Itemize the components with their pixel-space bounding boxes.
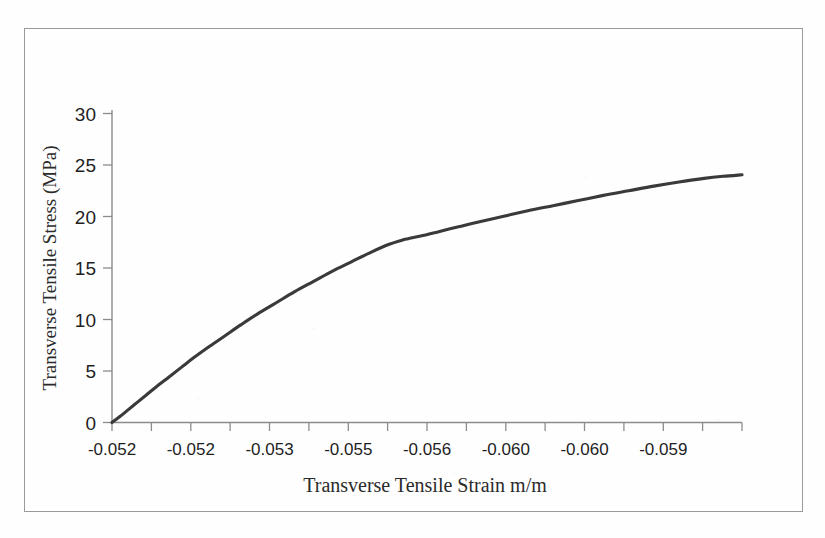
x-axis-ticks bbox=[112, 423, 742, 432]
y-tick-label: 25 bbox=[75, 155, 96, 176]
data-series-line bbox=[112, 175, 742, 423]
y-tick-label: 5 bbox=[85, 361, 96, 382]
x-tick-label: -0.052 bbox=[88, 440, 136, 459]
x-axis-title: Transverse Tensile Strain m/m bbox=[303, 474, 547, 496]
x-tick-label: -0.060 bbox=[482, 440, 530, 459]
stress-strain-chart: 30 25 20 15 10 5 0 bbox=[0, 0, 825, 538]
x-tick-label: -0.056 bbox=[403, 440, 451, 459]
x-tick-label: -0.055 bbox=[324, 440, 372, 459]
y-tick-label: 0 bbox=[85, 413, 96, 434]
y-tick-label: 30 bbox=[75, 104, 96, 125]
figure-page: 30 25 20 15 10 5 0 bbox=[0, 0, 825, 538]
y-tick-label: 15 bbox=[75, 258, 96, 279]
x-tick-label: -0.059 bbox=[639, 440, 687, 459]
y-axis-ticks bbox=[103, 114, 112, 423]
y-tick-label: 20 bbox=[75, 207, 96, 228]
x-tick-label: -0.060 bbox=[560, 440, 608, 459]
y-tick-labels: 30 25 20 15 10 5 0 bbox=[75, 104, 96, 434]
x-tick-label: -0.053 bbox=[245, 440, 293, 459]
x-tick-label: -0.052 bbox=[167, 440, 215, 459]
y-axis-title: Transverse Tensile Stress (MPa) bbox=[39, 145, 61, 390]
x-tick-labels: -0.052 -0.052 -0.053 -0.055 -0.056 -0.06… bbox=[88, 440, 688, 459]
y-tick-label: 10 bbox=[75, 310, 96, 331]
